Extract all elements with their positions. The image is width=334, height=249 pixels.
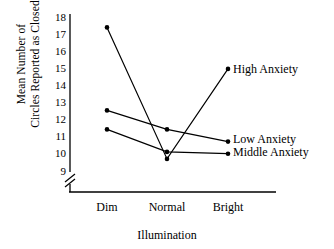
series-label-middle-anxiety: Middle Anxiety [233,146,309,158]
data-point-low-anxiety-normal [165,127,170,132]
data-point-high-anxiety-dim [105,25,110,30]
data-point-low-anxiety-bright [226,139,231,144]
x-tick-label-dim: Dim [77,201,137,213]
data-point-high-anxiety-bright [226,67,231,72]
x-axis-title: Illumination [0,228,334,243]
chart-figure: Mean Number of Circles Reported as Close… [0,0,334,249]
x-tick-label-normal: Normal [137,201,197,213]
series-label-high-anxiety: High Anxiety [233,63,298,75]
data-point-middle-anxiety-bright [226,151,231,156]
series-line-high-anxiety [107,27,228,159]
data-point-middle-anxiety-dim [105,127,110,132]
data-point-middle-anxiety-normal [165,150,170,155]
x-tick-label-bright: Bright [198,201,258,213]
series-label-low-anxiety: Low Anxiety [233,133,296,145]
series-line-low-anxiety [107,110,228,141]
data-point-low-anxiety-dim [105,108,110,113]
data-point-high-anxiety-normal [165,157,170,162]
